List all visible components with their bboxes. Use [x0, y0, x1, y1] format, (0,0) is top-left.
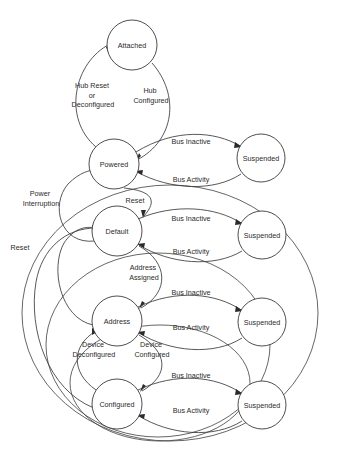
edge-label-reset-left: Reset: [11, 243, 30, 252]
state-label-powered: Powered: [100, 160, 128, 169]
state-diagram-canvas: Attached Powered Default Address Configu…: [0, 0, 338, 462]
edge-label-address-assigned: Address Assigned: [129, 263, 159, 282]
edge-label-address-bus-activity: Bus Activity: [173, 323, 210, 332]
state-node-address[interactable]: Address: [92, 296, 142, 346]
state-label-suspended-address: Suspended: [244, 318, 280, 327]
edge-hub-configured: [137, 63, 170, 160]
edge-label-configured-bus-activity: Bus Activity: [173, 406, 210, 415]
state-label-address: Address: [104, 317, 131, 326]
state-node-default[interactable]: Default: [92, 206, 142, 256]
edge-label-power-interruption: Power Interruption: [23, 189, 59, 208]
edge-reset-address: [58, 227, 95, 325]
state-node-configured[interactable]: Configured: [92, 379, 142, 429]
state-node-powered[interactable]: Powered: [89, 139, 139, 189]
edge-address-bus-inactive: [138, 295, 241, 310]
state-node-suspended-powered[interactable]: Suspended: [237, 134, 285, 182]
edge-label-address-bus-inactive: Bus Inactive: [171, 288, 210, 297]
state-label-suspended-powered: Suspended: [243, 154, 279, 163]
state-label-suspended-default: Suspended: [244, 231, 280, 240]
state-node-suspended-configured[interactable]: Suspended: [238, 381, 286, 429]
edge-label-powered-bus-inactive: Bus Inactive: [171, 137, 210, 146]
edge-label-powered-bus-activity: Bus Activity: [173, 175, 210, 184]
state-label-attached: Attached: [118, 41, 146, 50]
edge-configured-bus-activity: [139, 416, 242, 433]
state-node-attached[interactable]: Attached: [107, 20, 157, 70]
state-label-suspended-configured: Suspended: [244, 401, 280, 410]
edge-label-configured-bus-inactive: Bus Inactive: [171, 371, 210, 380]
edge-label-hub-configured: Hub Configured: [133, 86, 168, 105]
state-node-suspended-default[interactable]: Suspended: [238, 211, 286, 259]
edge-label-device-configured: Device Configured: [134, 340, 169, 359]
state-nodes: Attached Powered Default Address Configu…: [89, 20, 286, 429]
edge-label-default-bus-activity: Bus Activity: [173, 247, 210, 256]
edge-label-default-bus-inactive: Bus Inactive: [171, 214, 210, 223]
edge-label-reset-top: Reset: [126, 196, 145, 205]
edge-reset-long: [34, 228, 96, 408]
state-node-suspended-address[interactable]: Suspended: [238, 298, 286, 346]
state-label-default: Default: [106, 227, 129, 236]
edge-configured-bus-inactive: [138, 378, 241, 393]
state-label-configured: Configured: [99, 400, 134, 409]
edge-label-hub-reset: Hub Reset or Deconfigured: [72, 81, 115, 109]
usb-state-diagram: Attached Powered Default Address Configu…: [0, 0, 338, 462]
